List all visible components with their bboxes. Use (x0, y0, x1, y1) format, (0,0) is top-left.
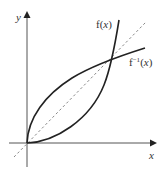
x-axis-arrow-icon (150, 140, 157, 147)
inverse-function-diagram: y x f(x) f−1(x) (0, 0, 162, 169)
y-axis-label: y (15, 11, 21, 23)
x-axis-label: x (148, 149, 154, 161)
y-equals-x-line (14, 22, 146, 157)
y-axis-arrow-icon (24, 11, 31, 18)
f-curve (27, 20, 119, 143)
f-inverse-label: f−1(x) (129, 56, 153, 69)
f-inverse-curve (27, 48, 145, 143)
f-label: f(x) (96, 18, 112, 31)
